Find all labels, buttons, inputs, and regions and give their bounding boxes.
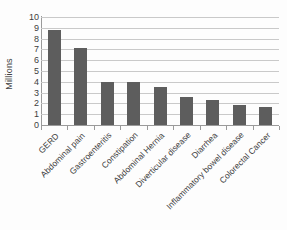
x-axis-tick <box>147 126 148 130</box>
y-axis-tick-label: 6 <box>34 56 39 65</box>
y-axis-tick-label: 5 <box>34 67 39 76</box>
y-axis-tick-label: 0 <box>34 121 39 130</box>
bar <box>233 105 246 125</box>
x-axis-category-label[interactable]: Colorectal Cancer <box>218 131 272 185</box>
bar <box>259 107 272 125</box>
x-axis-tick <box>94 126 95 130</box>
x-axis-tick <box>200 126 201 130</box>
x-axis-tick <box>41 126 42 130</box>
x-axis-tick <box>253 126 254 130</box>
bar <box>180 97 193 125</box>
bar <box>127 82 140 125</box>
y-axis-tick-label: 1 <box>34 110 39 119</box>
bar-chart-figure: Millions 109876543210 GERDAbdominal pain… <box>0 0 287 230</box>
x-axis-tick <box>120 126 121 130</box>
x-axis-tick <box>173 126 174 130</box>
plot-area <box>41 17 279 125</box>
y-axis-tick-labels: 109876543210 <box>22 12 39 125</box>
y-axis-tick-label: 9 <box>34 24 39 33</box>
y-axis-tick-label: 8 <box>34 35 39 44</box>
bar <box>206 100 219 125</box>
x-axis-tick <box>226 126 227 130</box>
bar-series <box>41 17 279 125</box>
y-axis-tick-label: 7 <box>34 45 39 54</box>
bar <box>48 30 61 125</box>
y-axis-tick-label: 4 <box>34 78 39 87</box>
x-axis-tick <box>67 126 68 130</box>
x-axis-ticks <box>41 126 279 130</box>
y-axis-tick-label: 2 <box>34 99 39 108</box>
y-axis-tick-label: 3 <box>34 89 39 98</box>
y-axis-tick-label: 10 <box>29 13 39 22</box>
bar <box>101 82 114 125</box>
x-axis-category-label[interactable]: GERD <box>37 131 61 155</box>
bar <box>74 48 87 125</box>
y-axis-title: Millions <box>4 44 14 104</box>
x-axis-tick <box>279 126 280 130</box>
bar <box>154 87 167 125</box>
